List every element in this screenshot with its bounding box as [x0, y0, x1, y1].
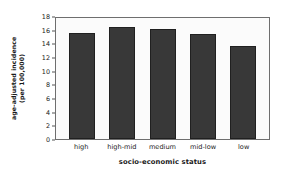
x-axis-tick-label: mid-low — [183, 143, 224, 155]
y-axis-tick-mark — [52, 85, 55, 86]
y-axis-tick-mark — [52, 99, 55, 100]
y-axis-tick-label: 4 — [46, 109, 50, 116]
y-axis-tick-mark — [52, 58, 55, 59]
bar-series — [56, 18, 269, 139]
bar-medium — [150, 29, 176, 139]
y-axis-title-line-2: (per 100,000) — [19, 36, 27, 119]
y-axis-title-line-1: age-adjusted incidence — [11, 36, 18, 119]
y-axis-tick-label: 2 — [46, 123, 50, 130]
y-axis-tick-label: 12 — [42, 55, 50, 62]
bar-high-mid — [109, 27, 135, 139]
bar-chart-figure: age-adjusted incidence (per 100,000) 024… — [0, 0, 288, 180]
y-axis-tick-mark — [52, 71, 55, 72]
bar-low — [230, 46, 256, 139]
bar-slot — [183, 18, 223, 139]
y-axis-tick-mark — [52, 140, 55, 141]
y-axis-title-text: age-adjusted incidence (per 100,000) — [11, 36, 28, 119]
x-axis-tick-label: high-mid — [102, 143, 143, 155]
y-axis-tick-label: 10 — [42, 68, 50, 75]
plot-area — [55, 17, 270, 140]
y-axis-tick-label: 18 — [42, 14, 50, 21]
y-axis-tick-mark — [52, 17, 55, 18]
bar-slot — [102, 18, 142, 139]
x-axis-title: socio-economic status — [55, 158, 270, 166]
bar-high — [69, 33, 95, 139]
bar-slot — [223, 18, 263, 139]
bar-mid-low — [190, 34, 216, 139]
x-axis-tick-label: medium — [142, 143, 183, 155]
y-axis-tick-labels: 024681012141618 — [34, 13, 50, 143]
bar-slot — [142, 18, 182, 139]
bar-slot — [62, 18, 102, 139]
y-axis-tick-mark — [52, 112, 55, 113]
y-axis-tick-label: 8 — [46, 82, 50, 89]
y-axis-tick-label: 16 — [42, 27, 50, 34]
y-axis-tick-label: 14 — [42, 41, 50, 48]
y-axis-tick-label: 0 — [46, 137, 50, 144]
x-axis-tick-label: high — [61, 143, 102, 155]
y-axis-tick-label: 6 — [46, 96, 50, 103]
y-axis-tick-mark — [52, 30, 55, 31]
x-axis-tick-label: low — [223, 143, 264, 155]
y-axis-title: age-adjusted incidence (per 100,000) — [4, 14, 34, 142]
y-axis-tick-mark — [52, 126, 55, 127]
x-axis-tick-labels: highhigh-midmediummid-lowlow — [55, 143, 270, 155]
y-axis-tick-mark — [52, 44, 55, 45]
